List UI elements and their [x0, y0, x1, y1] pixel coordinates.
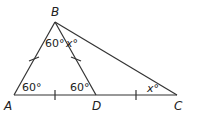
angle-label-adb: 60°: [70, 81, 90, 94]
vertex-label-b: B: [51, 5, 59, 19]
vertex-label-c: C: [174, 99, 183, 113]
angle-label-c: x°: [146, 82, 159, 95]
angle-label-a: 60°: [22, 81, 42, 94]
angle-label-dbc: x°: [65, 37, 78, 50]
vertex-label-a: A: [3, 99, 12, 113]
triangle-diagram: B A D C 60° 60° 60° x° x°: [0, 0, 197, 116]
vertex-label-d: D: [92, 99, 101, 113]
angle-label-abd: 60°: [45, 37, 65, 50]
